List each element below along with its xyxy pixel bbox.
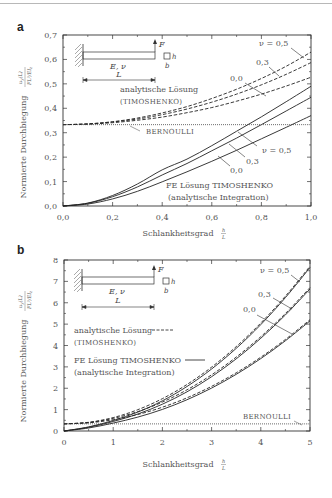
legend-analytic-line2: (TIMOSHENKO)	[74, 339, 136, 347]
panel-a-label: a	[17, 20, 24, 34]
nu00-dash-label: 0,0	[230, 74, 243, 83]
svg-text:L: L	[221, 465, 226, 471]
panel-b-xlabel: Schlankheitsgrad h L	[142, 458, 226, 471]
svg-text:L: L	[114, 296, 120, 305]
x-tick-label: 0,6	[205, 213, 218, 222]
legend-analytic-line1: analytische Lösung	[120, 85, 198, 94]
nu03-dash-label: 0,3	[256, 58, 269, 67]
svg-text:Normierte Durchbiegung: Normierte Durchbiegung	[19, 96, 28, 199]
y-tick-label: 3	[53, 363, 58, 372]
legend-fe-line1: FE Lösung TIMOSHENKO	[166, 181, 273, 190]
nu00-solid-label: 0,0	[230, 166, 243, 175]
legend-analytic-line2: (TIMOSHENKO)	[120, 98, 182, 106]
cross-section-icon	[163, 278, 169, 284]
x-tick-label: 0,2	[106, 213, 119, 222]
y-tick-label: 2	[53, 384, 58, 393]
bernoulli-label: BERNOULLI	[146, 128, 194, 136]
force-arrow-icon	[153, 39, 157, 52]
legend-fe-line2: (analytische Integration)	[168, 193, 269, 202]
x-tick-label: 3	[209, 438, 214, 447]
svg-text:Schlankheitsgrad: Schlankheitsgrad	[142, 229, 213, 238]
nu03-solid-label: 0,3	[246, 157, 259, 166]
y-tick-label: 0,4	[44, 104, 57, 113]
y-tick-label: 8	[53, 256, 58, 265]
cross-section-icon	[164, 53, 170, 59]
svg-text:Normierte Durchbiegung: Normierte Durchbiegung	[19, 320, 28, 423]
svg-text:b: b	[164, 287, 169, 295]
y-tick-label: 0,1	[44, 178, 57, 187]
svg-text:h: h	[172, 53, 177, 61]
wall-hatch-icon	[74, 269, 82, 292]
nu05-dash-label: ν = 0,5	[259, 39, 288, 48]
svg-text:L: L	[115, 70, 121, 79]
panel-b-ylabel: Normierte Durchbiegung uy(L) FL³/EIz	[17, 290, 33, 423]
bernoulli-label: BERNOULLI	[243, 413, 291, 421]
x-tick-label: 5	[307, 438, 312, 447]
x-tick-label: 2	[160, 438, 165, 447]
y-tick-label: 0,5	[44, 80, 57, 89]
x-tick-label: 1,0	[305, 213, 318, 222]
beam	[83, 52, 155, 59]
svg-text:b: b	[165, 62, 170, 70]
y-tick-label: 0,7	[44, 31, 57, 40]
figure: a 0,00,20,40,60,81,00,00,10,20,30,40,50,…	[0, 0, 332, 498]
nu05-label: ν = 0,5	[260, 266, 289, 275]
x-tick-label: 0	[61, 438, 66, 447]
y-tick-label: 6	[53, 299, 58, 308]
svg-text:h: h	[171, 278, 176, 286]
x-tick-label: 1	[111, 438, 116, 447]
panel-a: a 0,00,20,40,60,81,00,00,10,20,30,40,50,…	[17, 20, 317, 240]
svg-text:h: h	[222, 458, 225, 464]
y-tick-label: 7	[53, 277, 58, 286]
svg-text:E, ν: E, ν	[108, 287, 125, 296]
ylabel-fraction-num: uy(L)	[17, 295, 24, 308]
series-line	[64, 267, 310, 431]
panel-b-label: b	[17, 243, 24, 257]
svg-text:L: L	[221, 234, 226, 240]
y-tick-label: 4	[53, 342, 58, 351]
y-tick-label: 0,0	[44, 202, 57, 211]
panel-b: b 012345012345678 Normierte Durchbiegung…	[17, 243, 313, 471]
nu00-label: 0,0	[243, 305, 256, 314]
y-tick-label: 0,6	[44, 55, 57, 64]
force-arrow-icon	[152, 265, 156, 277]
ylabel-fraction-den: FL³/EIz	[26, 66, 33, 86]
y-tick-label: 0,3	[44, 129, 57, 138]
ylabel-fraction-den: FL³/EIz	[26, 290, 33, 310]
beam	[82, 277, 154, 284]
x-tick-label: 0,8	[255, 213, 268, 222]
svg-text:Schlankheitsgrad: Schlankheitsgrad	[142, 460, 213, 469]
y-tick-label: 5	[53, 320, 58, 329]
svg-text:h: h	[222, 227, 225, 233]
ylabel-fraction-num: uy(L)	[17, 71, 24, 84]
wall-hatch-icon	[75, 44, 83, 67]
legend-analytic-line1: analytische Lösung	[74, 326, 152, 335]
panel-a-ylabel: Normierte Durchbiegung uy(L) FL³/EIz	[17, 66, 33, 199]
x-tick-label: 4	[258, 438, 263, 447]
y-tick-label: 1	[53, 406, 58, 415]
x-tick-label: 0,0	[57, 213, 70, 222]
y-tick-label: 0,2	[44, 153, 57, 162]
panel-b-beam-inset: F h b E, ν L	[74, 265, 176, 310]
panel-b-curves	[64, 266, 310, 431]
nu05-solid-label: ν = 0,5	[262, 146, 291, 155]
svg-text:F: F	[158, 40, 165, 49]
svg-text:F: F	[157, 265, 164, 274]
legend-fe-line2: (analytische Integration)	[74, 368, 175, 377]
y-tick-label: 0	[53, 427, 58, 436]
legend-fe-line1: FE Lösung TIMOSHENKO	[74, 356, 181, 365]
nu03-label: 0,3	[258, 290, 271, 299]
panel-a-xlabel: Schlankheitsgrad h L	[142, 227, 226, 240]
x-tick-label: 0,4	[156, 213, 169, 222]
panel-a-beam-inset: F h b E, ν L	[75, 39, 177, 83]
